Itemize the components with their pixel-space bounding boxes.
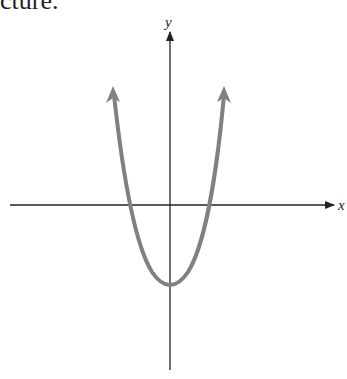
x-axis-label: x: [337, 197, 345, 213]
y-axis-label: y: [163, 14, 172, 30]
parabola-curve: [114, 95, 224, 285]
parabola-graph: x y: [0, 0, 347, 379]
